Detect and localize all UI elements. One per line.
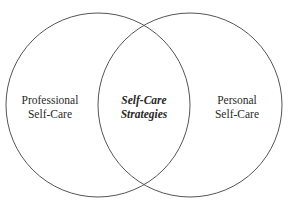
label-line: Strategies	[104, 107, 184, 121]
label-line: Self-Care	[197, 107, 277, 121]
label-line: Self-Care	[10, 107, 90, 121]
label-line: Personal	[197, 93, 277, 107]
self-care-strategies-label: Self-Care Strategies	[104, 93, 184, 121]
label-line: Professional	[10, 93, 90, 107]
personal-self-care-label: Personal Self-Care	[197, 93, 277, 121]
professional-self-care-label: Professional Self-Care	[10, 93, 90, 121]
label-line: Self-Care	[104, 93, 184, 107]
